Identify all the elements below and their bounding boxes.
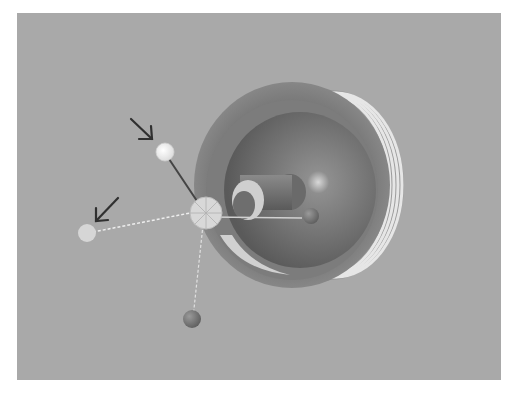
left-axis-end-sphere[interactable] — [78, 224, 96, 242]
lower-axis-line — [193, 225, 203, 318]
lower-axis-end-sphere[interactable] — [183, 310, 201, 328]
arrow-upper-icon — [131, 119, 152, 139]
gizmo-pivot[interactable] — [190, 197, 222, 229]
upper-axis-end-sphere[interactable] — [156, 143, 174, 161]
right-axis-line — [208, 217, 302, 218]
arrow-left-icon — [96, 198, 118, 221]
left-axis-line — [88, 212, 195, 233]
scene-canvas — [0, 0, 513, 393]
right-axis-end-sphere[interactable] — [303, 208, 319, 224]
